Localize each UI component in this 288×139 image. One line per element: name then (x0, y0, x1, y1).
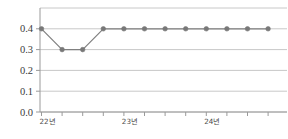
data-point (163, 27, 168, 32)
data-point (245, 27, 250, 32)
plot-background (40, 8, 287, 112)
data-point (60, 47, 65, 52)
x-tick-labels: 22년23년24년 (39, 117, 220, 126)
data-point (183, 27, 188, 32)
y-tick-labels: 0.00.10.20.30.4 (20, 23, 34, 117)
data-point (142, 27, 147, 32)
x-tick-marks (42, 112, 269, 116)
x-tick-label: 22년 (39, 117, 55, 126)
data-point (266, 27, 271, 32)
y-tick-label: 0.2 (20, 65, 33, 76)
y-tick-label: 0.1 (20, 86, 33, 97)
x-tick-label: 23년 (122, 117, 138, 126)
line-chart: 0.00.10.20.30.4 22년23년24년 (0, 0, 288, 139)
y-tick-label: 0.3 (20, 44, 33, 55)
data-point (39, 27, 44, 32)
y-tick-label: 0.0 (20, 107, 33, 118)
x-tick-label: 24년 (204, 117, 220, 126)
data-point (204, 27, 209, 32)
y-tick-marks (36, 29, 40, 112)
data-point (80, 47, 85, 52)
data-point (122, 27, 127, 32)
chart-canvas: 0.00.10.20.30.4 22년23년24년 (0, 0, 288, 139)
data-point (225, 27, 230, 32)
y-tick-label: 0.4 (20, 23, 34, 34)
data-point (101, 27, 106, 32)
